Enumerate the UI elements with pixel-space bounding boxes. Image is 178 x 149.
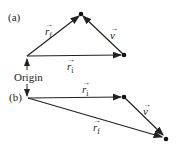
a-v-label: →v — [110, 30, 115, 41]
b-final-point — [164, 137, 169, 142]
a-rf-label: →rf — [45, 26, 52, 40]
a-ri-label: →ri — [67, 61, 74, 75]
b-ri-label: →ri — [82, 84, 89, 98]
a-rf-arrow — [27, 16, 79, 56]
b-v-label: →v — [143, 106, 148, 117]
b-ri-arrow — [28, 97, 121, 98]
panel-b-label: (b) — [9, 92, 22, 103]
a-v-arrow — [83, 16, 124, 55]
panel-a-label: (a) — [8, 12, 20, 23]
a-final-point — [79, 12, 84, 17]
vector-diagram: (a) (b) Origin →rf →v →ri →ri →v →rf — [0, 0, 178, 149]
b-initial-point — [122, 95, 127, 100]
b-rf-label: →rf — [93, 122, 100, 136]
origin-label: Origin — [14, 72, 43, 83]
a-initial-point — [122, 53, 127, 58]
